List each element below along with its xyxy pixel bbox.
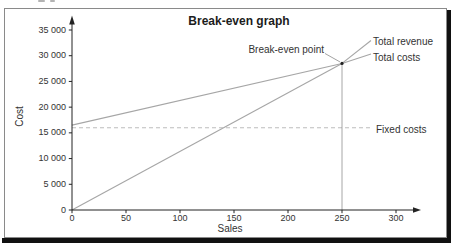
break-even-figure: Break-even graph Cost Sales Break-even p… (0, 0, 458, 252)
frame-shadow-bottom (2, 238, 451, 243)
frame-shadow-right (447, 10, 451, 243)
figure-frame (4, 8, 447, 238)
cropped-text-remnant (36, 0, 66, 3)
